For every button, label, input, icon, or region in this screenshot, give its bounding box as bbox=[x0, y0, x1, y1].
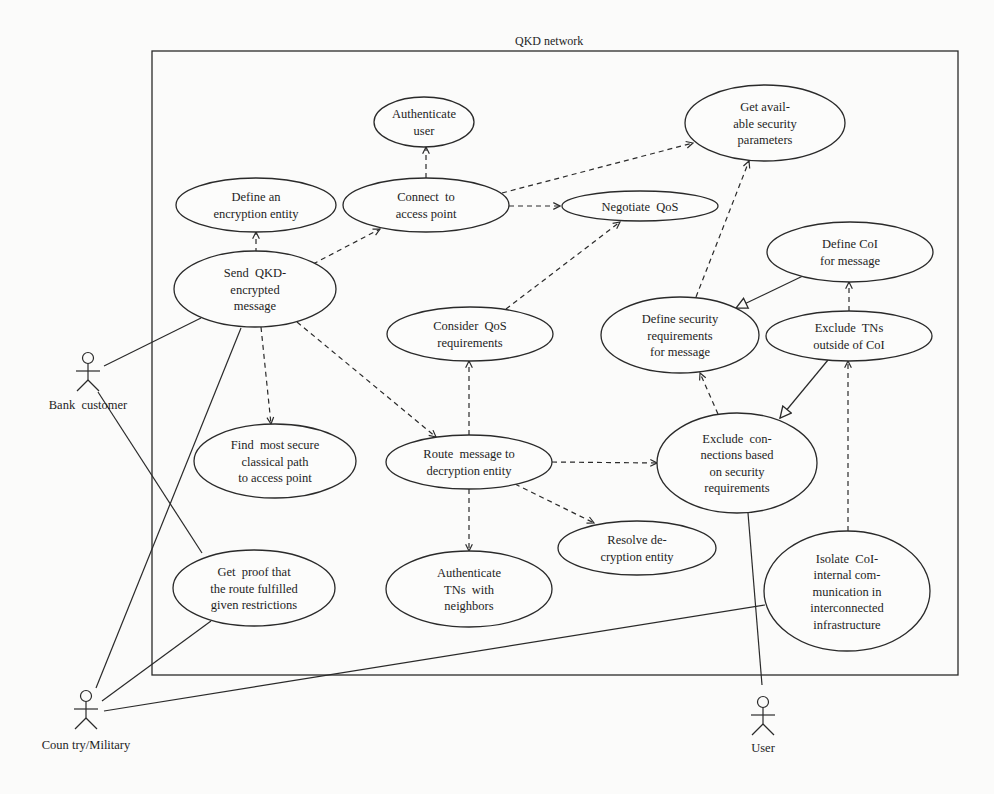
stick-figure-icon bbox=[74, 691, 98, 730]
actor-bank-customer[interactable]: Bank customer bbox=[49, 353, 128, 413]
use-case-find-secure-path[interactable]: Find most secureclassical pathto access … bbox=[194, 424, 356, 498]
include-arrow bbox=[261, 327, 271, 424]
use-case-label: Consider QoS bbox=[433, 319, 507, 333]
include-arrow bbox=[696, 161, 749, 297]
use-case-consider-qos[interactable]: Consider QoSrequirements bbox=[387, 307, 553, 361]
use-case-isolate-coi[interactable]: Isolate CoI-internal com-munication inin… bbox=[764, 531, 930, 651]
use-case-label: classical path bbox=[242, 455, 310, 469]
use-case-ellipse[interactable] bbox=[657, 413, 817, 513]
association-line bbox=[748, 513, 762, 685]
use-case-label: neighbors bbox=[444, 599, 493, 613]
use-case-label: given restrictions bbox=[211, 598, 298, 612]
use-case-ellipse[interactable] bbox=[374, 97, 474, 147]
actor-label: Coun try/Military bbox=[42, 738, 131, 752]
use-case-route-message[interactable]: Route message todecryption entity bbox=[386, 435, 552, 489]
use-case-label: to access point bbox=[238, 471, 312, 485]
use-case-label: nections based bbox=[700, 448, 774, 462]
use-case-exclude-tns[interactable]: Exclude TNsoutside of CoI bbox=[766, 311, 932, 361]
use-case-resolve-decryption[interactable]: Resolve de-cryption entity bbox=[558, 521, 716, 575]
use-case-label: internal com- bbox=[814, 568, 881, 582]
use-case-define-encryption-entity[interactable]: Define anencryption entity bbox=[176, 178, 336, 232]
use-case-exclude-connections[interactable]: Exclude con-nections basedon securityreq… bbox=[657, 413, 817, 513]
use-case-label: outside of CoI bbox=[813, 338, 885, 352]
use-case-ellipse[interactable] bbox=[176, 178, 336, 232]
stick-figure-icon bbox=[751, 697, 775, 736]
use-case-label: encryption entity bbox=[213, 207, 299, 221]
use-case-label: user bbox=[414, 124, 436, 138]
use-case-label: the route fulfilled bbox=[210, 582, 298, 596]
use-case-label: Exclude con- bbox=[702, 432, 771, 446]
system-boundary-title: QKD network bbox=[515, 34, 583, 48]
use-case-label: Authenticate bbox=[392, 107, 456, 121]
use-case-label: infrastructure bbox=[813, 618, 881, 632]
use-case-authenticate-user[interactable]: Authenticateuser bbox=[374, 97, 474, 147]
use-case-label: cryption entity bbox=[600, 550, 674, 564]
uml-use-case-diagram: QKD network AuthenticateuserGet avail-ab… bbox=[0, 0, 994, 794]
use-case-ellipse[interactable] bbox=[766, 311, 932, 361]
use-case-ellipse[interactable] bbox=[386, 435, 552, 489]
use-case-negotiate-qos[interactable]: Negotiate QoS bbox=[562, 191, 718, 221]
actor-label: Bank customer bbox=[49, 398, 128, 412]
use-case-define-coi[interactable]: Define CoIfor message bbox=[767, 222, 933, 282]
actor-label: User bbox=[751, 741, 775, 755]
use-case-label: for message bbox=[650, 345, 710, 359]
use-case-label: able security bbox=[733, 117, 797, 131]
actor-country-military[interactable]: Coun try/Military bbox=[42, 691, 131, 753]
use-case-label: access point bbox=[396, 207, 457, 221]
include-arrow bbox=[313, 229, 380, 264]
include-arrow bbox=[552, 462, 657, 463]
include-arrow bbox=[515, 484, 594, 523]
use-case-label: Define an bbox=[232, 190, 282, 204]
include-arrow bbox=[506, 222, 620, 309]
use-case-label: Resolve de- bbox=[607, 533, 666, 547]
generalization-arrow bbox=[736, 274, 807, 308]
use-case-label: message bbox=[234, 299, 277, 313]
use-case-label: Route message to bbox=[423, 447, 514, 461]
association-lines bbox=[96, 318, 765, 711]
use-case-label: parameters bbox=[738, 133, 793, 147]
stick-figure-icon bbox=[76, 353, 100, 392]
use-case-get-security-params[interactable]: Get avail-able securityparameters bbox=[685, 85, 845, 161]
use-case-ellipse[interactable] bbox=[767, 222, 933, 282]
actor-user[interactable]: User bbox=[751, 697, 776, 756]
use-case-label: on security bbox=[709, 465, 765, 479]
use-case-label: Negotiate QoS bbox=[601, 200, 678, 214]
use-case-label: Connect to bbox=[397, 190, 455, 204]
use-case-get-proof[interactable]: Get proof thatthe route fulfilledgiven r… bbox=[173, 550, 335, 626]
association-line bbox=[98, 392, 202, 553]
use-case-label: requirements bbox=[437, 336, 502, 350]
use-case-label: requirements bbox=[647, 329, 712, 343]
use-case-ellipse[interactable] bbox=[558, 521, 716, 575]
use-case-label: Get proof that bbox=[217, 565, 291, 579]
use-case-label: Authenticate bbox=[437, 566, 501, 580]
use-case-label: for message bbox=[820, 254, 880, 268]
use-case-connect-access-point[interactable]: Connect toaccess point bbox=[343, 178, 509, 232]
use-case-ellipse[interactable] bbox=[387, 307, 553, 361]
use-case-define-security-req[interactable]: Define securityrequirementsfor message bbox=[601, 297, 759, 373]
use-case-label: requirements bbox=[704, 481, 769, 495]
generalization-arrow bbox=[780, 360, 828, 418]
use-case-label: munication in bbox=[812, 585, 882, 599]
include-arrow bbox=[700, 373, 718, 414]
use-case-label: Get avail- bbox=[740, 100, 790, 114]
use-case-label: Isolate CoI- bbox=[816, 552, 878, 566]
use-cases: AuthenticateuserGet avail-able securityp… bbox=[173, 85, 933, 651]
use-case-label: Send QKD- bbox=[224, 266, 287, 280]
include-arrow bbox=[502, 143, 693, 193]
use-case-label: Exclude TNs bbox=[815, 321, 884, 335]
use-case-label: TNs with bbox=[444, 583, 495, 597]
use-case-label: Find most secure bbox=[231, 438, 320, 452]
use-case-label: decryption entity bbox=[426, 464, 512, 478]
use-case-label: encrypted bbox=[230, 283, 280, 297]
use-case-label: Define security bbox=[642, 312, 719, 326]
use-case-send-qkd-message[interactable]: Send QKD-encryptedmessage bbox=[174, 251, 336, 327]
use-case-label: interconnected bbox=[810, 601, 884, 615]
use-case-label: Define CoI bbox=[822, 237, 878, 251]
use-case-authenticate-tns[interactable]: AuthenticateTNs withneighbors bbox=[386, 551, 552, 627]
association-line bbox=[96, 328, 241, 688]
use-case-ellipse[interactable] bbox=[343, 178, 509, 232]
